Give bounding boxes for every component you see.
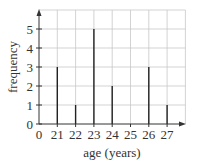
y-tick-marks: [36, 29, 167, 127]
x-tick-labels: 021222324252627: [36, 127, 174, 142]
x-tick-label: 26: [142, 127, 156, 142]
x-tick-label: 27: [161, 127, 175, 142]
x-tick-label: 22: [69, 127, 82, 142]
x-axis-title: age (years): [83, 145, 140, 160]
x-tick-label: 23: [87, 127, 100, 142]
y-tick-label: 3: [27, 60, 34, 75]
x-tick-label: 21: [51, 127, 64, 142]
y-axis-title: frequency: [5, 41, 20, 93]
y-tick-label: 2: [27, 79, 34, 94]
x-tick-label: 24: [106, 127, 120, 142]
y-tick-labels: 012345: [27, 22, 34, 132]
y-tick-label: 4: [27, 41, 34, 56]
x-tick-label: 25: [124, 127, 137, 142]
y-tick-label: 1: [27, 98, 34, 113]
y-tick-label: 5: [27, 22, 34, 37]
y-tick-label: 0: [27, 117, 34, 132]
frequency-chart: 021222324252627 012345 age (years) frequ…: [0, 0, 198, 163]
x-tick-label: 0: [36, 127, 43, 142]
x-axis-arrow-icon: [179, 122, 186, 127]
